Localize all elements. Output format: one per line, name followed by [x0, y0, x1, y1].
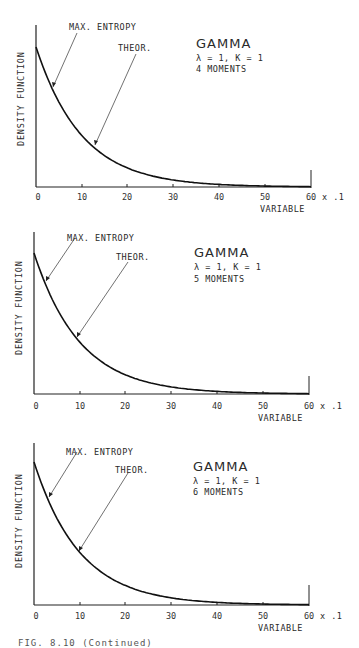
x-tick: 20: [120, 611, 130, 621]
chart-params: λ = 1, K = 1: [196, 53, 263, 63]
x-tick: 50: [258, 611, 268, 621]
x-axis-label: VARIABLE: [258, 623, 303, 633]
y-axis-label: DENSITY FUNCTION: [14, 473, 24, 568]
density-curve: [34, 462, 309, 605]
figure-caption: FIG. 8.10 (Continued): [18, 638, 153, 648]
plot-area: [0, 0, 359, 210]
chart-panel-5-moments: DENSITY FUNCTION MAX. ENTROPY THEOR. GAM…: [0, 207, 359, 417]
moments-label: 4 MOMENTS: [196, 64, 247, 74]
x-tick: 30: [166, 611, 176, 621]
x-tick: 30: [166, 401, 176, 411]
plot-area: [0, 207, 359, 417]
chart-params: λ = 1, K = 1: [193, 476, 260, 486]
chart-panel-6-moments: DENSITY FUNCTION MAX. ENTROPY THEOR. GAM…: [0, 418, 359, 628]
x-tick: 20: [122, 192, 132, 202]
plot-area: [0, 418, 359, 628]
annotation-theoretical: THEOR.: [115, 465, 149, 475]
density-curve: [34, 253, 309, 394]
chart-title: GAMMA: [196, 36, 251, 51]
x-scale-note: x .1: [322, 192, 344, 202]
annotation-max-entropy: MAX. ENTROPY: [69, 22, 136, 32]
annotation-theoretical: THEOR.: [116, 252, 150, 262]
y-axis-label: DENSITY FUNCTION: [16, 51, 26, 146]
y-axis-label: DENSITY FUNCTION: [14, 260, 24, 355]
chart-title: GAMMA: [193, 459, 248, 474]
x-tick: 40: [214, 192, 224, 202]
x-tick: 60: [304, 611, 314, 621]
x-tick: 10: [75, 611, 85, 621]
x-tick: 50: [260, 192, 270, 202]
x-tick: 0: [33, 401, 38, 411]
x-scale-note: x .1: [320, 611, 342, 621]
chart-panel-4-moments: DENSITY FUNCTION MAX. ENTROPY THEOR. GAM…: [0, 0, 359, 210]
x-tick: 40: [212, 401, 222, 411]
moments-label: 5 MOMENTS: [194, 274, 245, 284]
chart-params: λ = 1, K = 1: [194, 262, 261, 272]
annotation-theoretical: THEOR.: [118, 43, 152, 53]
chart-title: GAMMA: [194, 245, 249, 260]
x-tick: 30: [168, 192, 178, 202]
density-curve: [36, 47, 311, 187]
x-tick: 20: [120, 401, 130, 411]
x-tick: 0: [33, 611, 38, 621]
annotation-max-entropy: MAX. ENTROPY: [66, 447, 133, 457]
moments-label: 6 MOMENTS: [193, 487, 244, 497]
x-tick: 60: [306, 192, 316, 202]
x-tick: 0: [35, 192, 40, 202]
x-scale-note: x .1: [320, 401, 342, 411]
x-tick: 60: [304, 401, 314, 411]
annotation-max-entropy: MAX. ENTROPY: [67, 233, 134, 243]
x-tick: 10: [75, 401, 85, 411]
x-tick: 50: [258, 401, 268, 411]
x-tick: 40: [212, 611, 222, 621]
x-tick: 10: [77, 192, 87, 202]
